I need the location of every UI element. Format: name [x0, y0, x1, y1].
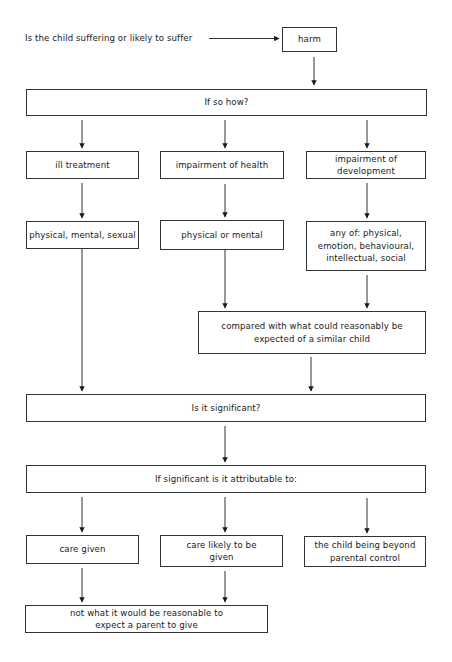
- node-physical-mental-sexual: physical, mental, sexual: [26, 221, 139, 249]
- node-if-so-how: If so how?: [26, 89, 427, 116]
- node-care-likely-to-be-given: care likely to be given: [160, 535, 283, 567]
- node-not-reasonable: not what it would be reasonable to expec…: [25, 605, 268, 633]
- question-text: Is the child suffering or likely to suff…: [25, 32, 192, 44]
- node-physical-or-mental: physical or mental: [160, 220, 284, 250]
- node-care-given: care given: [26, 535, 139, 564]
- node-impairment-of-health: impairment of health: [160, 151, 284, 179]
- node-harm: harm: [282, 27, 337, 52]
- flowchart: Is the child suffering or likely to suff…: [0, 0, 452, 662]
- node-impairment-of-development: impairment of development: [306, 151, 426, 179]
- node-beyond-parental-control: the child being beyond parental control: [304, 536, 426, 567]
- node-ill-treatment: ill treatment: [26, 151, 139, 179]
- node-attributable-to: If significant is it attributable to:: [26, 465, 426, 493]
- node-compared-with: compared with what could reasonably be e…: [198, 311, 426, 354]
- node-development-types: any of: physical, emotion, behavioural, …: [306, 221, 426, 271]
- node-is-it-significant: Is it significant?: [26, 394, 426, 422]
